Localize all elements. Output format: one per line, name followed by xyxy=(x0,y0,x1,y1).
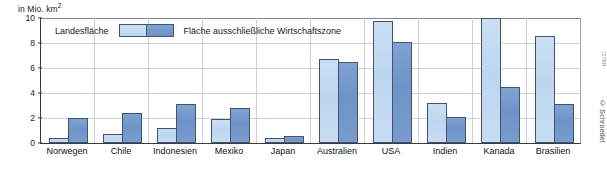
bar-landesflaeche xyxy=(481,18,501,143)
credit-code: 727BH xyxy=(601,51,607,66)
bar-landesflaeche xyxy=(265,138,285,143)
x-axis-label-norwegen: Norwegen xyxy=(40,146,94,156)
legend-item-landesflaeche-label: Landesfläche xyxy=(55,26,109,36)
bar-wirtschaftszone xyxy=(68,118,88,143)
bar-landesflaeche xyxy=(157,128,177,143)
x-axis-label-usa: USA xyxy=(364,146,418,156)
x-axis-label-indien: Indien xyxy=(418,146,472,156)
bar-group xyxy=(527,18,581,143)
legend-swatch-light xyxy=(120,25,146,36)
x-axis-label-indonesien: Indonesien xyxy=(148,146,202,156)
bar-wirtschaftszone xyxy=(392,42,412,143)
legend-swatch xyxy=(119,24,174,37)
bar-landesflaeche xyxy=(49,138,69,143)
bar-landesflaeche xyxy=(535,36,555,144)
bar-group xyxy=(473,18,527,143)
bar-landesflaeche xyxy=(427,103,447,143)
x-axis-label-kanada: Kanada xyxy=(472,146,526,156)
legend-item-wirtschaftszone-label: Fläche ausschließliche Wirtschaftszone xyxy=(184,26,342,36)
bar-wirtschaftszone xyxy=(284,136,304,144)
x-axis-labels: NorwegenChileIndonesienMexikoJapanAustra… xyxy=(40,146,580,156)
chart-figure: in Mio. km2 0246810 Landesfläche Fläche … xyxy=(0,0,607,169)
credit-text: © Schroedel xyxy=(599,100,606,143)
bar-wirtschaftszone xyxy=(176,104,196,143)
bar-landesflaeche xyxy=(373,21,393,144)
y-axis-tick-label: 0 xyxy=(30,138,35,148)
x-axis-label-australien: Australien xyxy=(310,146,364,156)
x-axis-label-brasilien: Brasilien xyxy=(526,146,580,156)
bar-group xyxy=(365,18,419,143)
plot-area: 0246810 Landesfläche Fläche ausschließli… xyxy=(40,18,581,144)
chart-legend: Landesfläche Fläche ausschließliche Wirt… xyxy=(55,24,341,37)
bar-wirtschaftszone xyxy=(338,62,358,143)
x-axis-label-japan: Japan xyxy=(256,146,310,156)
bar-wirtschaftszone xyxy=(500,87,520,143)
y-axis-unit-text: in Mio. km xyxy=(18,4,58,14)
y-axis-tick-label: 4 xyxy=(30,88,35,98)
y-axis-unit-exponent: 2 xyxy=(58,2,62,9)
x-axis-label-mexiko: Mexiko xyxy=(202,146,256,156)
y-axis-unit-label: in Mio. km2 xyxy=(18,2,61,14)
legend-swatch-dark xyxy=(146,25,173,36)
bar-landesflaeche xyxy=(319,59,339,143)
y-axis-tick-label: 10 xyxy=(26,13,35,23)
y-axis-tick-label: 2 xyxy=(30,113,35,123)
bar-landesflaeche xyxy=(103,134,123,143)
y-axis-tick-label: 6 xyxy=(30,63,35,73)
bar-landesflaeche xyxy=(211,119,231,143)
x-axis-label-chile: Chile xyxy=(94,146,148,156)
y-axis-tick-label: 8 xyxy=(30,38,35,48)
bar-wirtschaftszone xyxy=(122,113,142,143)
credit-block: © Schroedel 727BH xyxy=(601,48,607,66)
bar-group xyxy=(419,18,473,143)
bar-wirtschaftszone xyxy=(554,104,574,143)
bar-wirtschaftszone xyxy=(230,108,250,143)
bar-wirtschaftszone xyxy=(446,117,466,143)
